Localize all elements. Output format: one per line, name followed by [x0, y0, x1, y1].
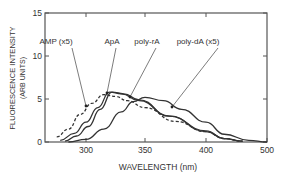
y-axis-label: FLUORESCENCE INTENSITY: [8, 27, 17, 130]
x-tick-label: 400: [199, 145, 213, 155]
curve-annotation: poly-rA: [134, 37, 160, 46]
y-tick-label: 15: [33, 8, 43, 18]
y-tick-label: 5: [37, 94, 42, 104]
annotations: AMP (x5)ApApoly-rApoly-dA (x5): [39, 37, 219, 108]
fluorescence-chart: 300350400500051015 AMP (x5)ApApoly-rApol…: [0, 0, 286, 175]
y-tick-label: 10: [33, 51, 43, 61]
curve-annotation: ApA: [104, 37, 120, 46]
curve-apa: [60, 92, 242, 141]
plot-frame: [45, 13, 267, 142]
x-tick-label: 350: [138, 145, 152, 155]
y-axis-sublabel: (ARB UNITS): [19, 57, 27, 99]
x-tick-label: 300: [79, 145, 93, 155]
curve-annotation: AMP (x5): [39, 37, 73, 46]
x-tick-label: 500: [260, 145, 274, 155]
y-tick-label: 0: [37, 137, 42, 147]
x-axis-label: WAVELENGTH (nm): [119, 162, 198, 172]
curves: [57, 92, 267, 142]
axis-ticks: 300350400500051015: [33, 8, 275, 155]
curve-annotation: poly-dA (x5): [177, 37, 220, 46]
